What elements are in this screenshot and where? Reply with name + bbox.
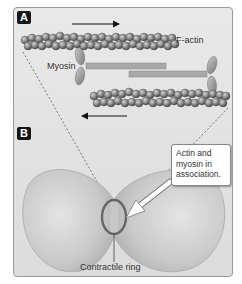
callout-line-1: Actin and <box>176 148 226 159</box>
f-actin-label: F-actin <box>176 35 204 45</box>
callout-line-3: association. <box>176 169 226 180</box>
myosin-filaments <box>86 63 207 77</box>
actin-myosin-callout: Actin and myosin in association. <box>171 144 231 186</box>
figure-frame: A B F-actin Myosin Actin and myosin in a… <box>13 7 233 277</box>
myosin-label: Myosin <box>47 61 76 71</box>
f-actin-filament-top <box>21 32 179 50</box>
callout-line-2: myosin in <box>176 159 226 170</box>
panel-label-b: B <box>17 127 31 140</box>
diagram-graphics <box>14 8 233 277</box>
myosin-heads <box>74 46 219 94</box>
panel-label-a: A <box>17 11 31 24</box>
contractile-ring-label: Contractile ring <box>80 262 141 272</box>
